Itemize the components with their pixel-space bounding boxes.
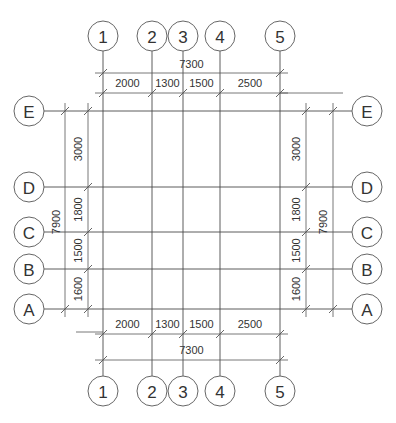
dimension-left-span: 1600 xyxy=(72,277,84,301)
axis-label-right-D: D xyxy=(361,179,373,198)
dimension-top-span: 1300 xyxy=(155,77,179,89)
dimension-top-span: 1500 xyxy=(189,77,213,89)
dimension-right-total: 7900 xyxy=(317,210,329,234)
axis-label-top-5: 5 xyxy=(275,28,284,47)
dimension-top-total: 7300 xyxy=(179,58,203,70)
dimension-left-total: 7900 xyxy=(50,210,62,234)
axis-label-left-C: C xyxy=(23,224,35,243)
axis-label-right-E: E xyxy=(361,103,372,122)
axis-label-top-2: 2 xyxy=(147,28,156,47)
axis-label-bottom-3: 3 xyxy=(178,383,187,402)
grid-svg: 7300200013001500250020001300150025007300… xyxy=(0,0,396,423)
dimension-bottom-span: 2000 xyxy=(115,318,139,330)
axis-label-left-A: A xyxy=(23,301,35,320)
axis-label-right-A: A xyxy=(361,301,373,320)
axis-label-right-C: C xyxy=(361,224,373,243)
dimension-bottom-span: 1300 xyxy=(155,318,179,330)
axis-label-left-D: D xyxy=(23,179,35,198)
axis-label-top-3: 3 xyxy=(178,28,187,47)
dimension-right-span: 3000 xyxy=(290,137,302,161)
dimension-right-span: 1500 xyxy=(290,238,302,262)
axis-label-top-1: 1 xyxy=(98,28,107,47)
axis-label-left-E: E xyxy=(23,103,34,122)
axis-label-bottom-5: 5 xyxy=(275,383,284,402)
axis-label-right-B: B xyxy=(361,261,372,280)
axis-label-bottom-4: 4 xyxy=(215,383,224,402)
dimension-right-span: 1800 xyxy=(290,197,302,221)
axis-grid-drawing: 7300200013001500250020001300150025007300… xyxy=(0,0,396,423)
dimension-bottom-total: 7300 xyxy=(179,344,203,356)
axis-label-bottom-2: 2 xyxy=(147,383,156,402)
axis-label-top-4: 4 xyxy=(215,28,224,47)
dimension-bottom-span: 2500 xyxy=(238,318,262,330)
axis-label-bottom-1: 1 xyxy=(98,383,107,402)
dimension-left-span: 3000 xyxy=(72,137,84,161)
dimension-left-span: 1800 xyxy=(72,197,84,221)
dimension-right-span: 1600 xyxy=(290,277,302,301)
dimension-top-span: 2500 xyxy=(238,77,262,89)
dimension-bottom-span: 1500 xyxy=(189,318,213,330)
dimension-left-span: 1500 xyxy=(72,238,84,262)
dimension-top-span: 2000 xyxy=(115,77,139,89)
axis-label-left-B: B xyxy=(23,261,34,280)
